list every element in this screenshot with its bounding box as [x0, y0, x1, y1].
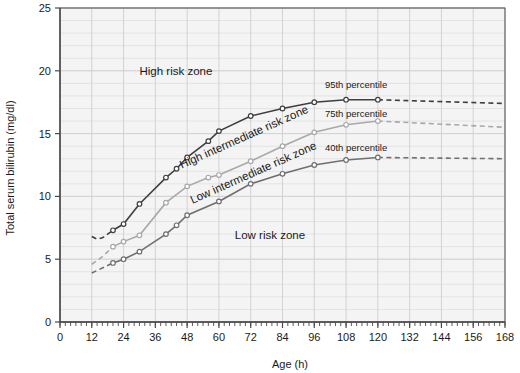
- data-point-marker: [137, 202, 142, 207]
- x-tick-label: 12: [86, 331, 98, 343]
- x-tick-label: 120: [369, 331, 387, 343]
- y-tick-label: 5: [45, 253, 51, 265]
- data-point-marker: [206, 139, 211, 144]
- x-axis: 01224364860728496108120132144156168: [57, 322, 514, 343]
- data-point-marker: [376, 119, 381, 124]
- y-tick-label: 15: [39, 128, 51, 140]
- data-point-marker: [280, 144, 285, 149]
- y-axis: 0510152025: [39, 2, 60, 328]
- data-point-marker: [312, 100, 317, 105]
- data-point-marker: [185, 184, 190, 189]
- data-point-marker: [111, 244, 116, 249]
- data-point-marker: [121, 239, 126, 244]
- curve-label-40th-percentile: 40th percentile: [325, 142, 387, 153]
- high-risk-zone-label: High risk zone: [139, 65, 212, 77]
- y-tick-label: 10: [39, 190, 51, 202]
- x-tick-label: 0: [57, 331, 63, 343]
- x-tick-label: 108: [337, 331, 355, 343]
- x-tick-label: 132: [400, 331, 418, 343]
- data-point-marker: [111, 261, 116, 266]
- data-point-marker: [164, 200, 169, 205]
- data-point-marker: [217, 173, 222, 178]
- y-tick-label: 20: [39, 65, 51, 77]
- data-point-marker: [280, 171, 285, 176]
- x-tick-label: 168: [496, 331, 514, 343]
- y-tick-label: 0: [45, 316, 51, 328]
- x-tick-label: 156: [464, 331, 482, 343]
- data-point-marker: [174, 166, 179, 171]
- x-tick-label: 24: [117, 331, 129, 343]
- data-point-marker: [121, 222, 126, 227]
- data-point-marker: [344, 123, 349, 128]
- x-tick-label: 60: [213, 331, 225, 343]
- x-tick-label: 144: [432, 331, 450, 343]
- data-point-marker: [174, 223, 179, 228]
- x-tick-label: 96: [308, 331, 320, 343]
- y-tick-label: 25: [39, 2, 51, 14]
- x-axis-title: Age (h): [272, 358, 308, 370]
- data-point-marker: [121, 257, 126, 262]
- chart-canvas: 0510152025 01224364860728496108120132144…: [0, 0, 520, 373]
- data-point-marker: [185, 213, 190, 218]
- data-point-marker: [376, 155, 381, 160]
- x-tick-label: 48: [181, 331, 193, 343]
- x-tick-label: 36: [149, 331, 161, 343]
- data-point-marker: [248, 182, 253, 187]
- low-risk-zone-label: Low risk zone: [235, 229, 305, 241]
- data-point-marker: [376, 97, 381, 102]
- data-point-marker: [164, 232, 169, 237]
- data-point-marker: [137, 249, 142, 254]
- curve-label-75th-percentile: 75th percentile: [325, 108, 387, 119]
- data-point-marker: [217, 129, 222, 134]
- data-point-marker: [344, 97, 349, 102]
- curve-label-95th-percentile: 95th percentile: [325, 79, 387, 90]
- x-tick-label: 72: [245, 331, 257, 343]
- data-point-marker: [312, 130, 317, 135]
- data-point-marker: [164, 175, 169, 180]
- data-point-marker: [280, 106, 285, 111]
- data-point-marker: [217, 199, 222, 204]
- data-point-marker: [111, 228, 116, 233]
- data-point-marker: [344, 158, 349, 163]
- y-axis-title: Total serum bilirubin (mg/dl): [4, 100, 16, 235]
- data-point-marker: [312, 163, 317, 168]
- data-point-marker: [248, 114, 253, 119]
- data-point-marker: [137, 233, 142, 238]
- bilirubin-nomogram-chart: 0510152025 01224364860728496108120132144…: [0, 0, 520, 373]
- x-tick-label: 84: [276, 331, 288, 343]
- data-point-marker: [206, 175, 211, 180]
- data-point-marker: [248, 159, 253, 164]
